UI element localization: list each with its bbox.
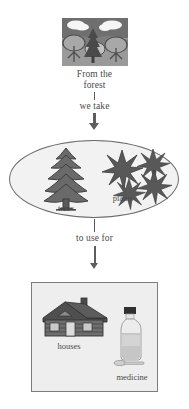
oval-item-label-trees: trees [42,203,90,213]
log-house-icon [39,296,111,340]
connector-line-2 [94,219,95,232]
box-item-label-medicine: medicine [104,372,160,382]
connector-line-1 [94,92,95,100]
arrow-2-head [90,263,98,269]
medicine-bottle-icon [110,305,152,369]
arrow-1-head [89,123,99,130]
oval-item-label-plants: plants [99,193,147,203]
box-item-label-houses: houses [38,341,100,351]
source-caption: From the forest [0,69,189,90]
connector-2-label: to use for [0,233,189,244]
connector-1-label: we take [0,101,189,112]
flowchart-diagram: From the forest we take [0,0,189,409]
plant-leaves-icon [96,142,174,214]
forest-scene-icon [62,18,128,66]
